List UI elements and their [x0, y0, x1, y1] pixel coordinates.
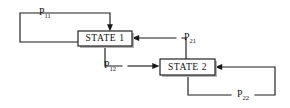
- p21-label-group: P21: [184, 31, 196, 43]
- diagram-canvas: STATE 1 STATE 2 P11 P12 P21 P22: [0, 0, 290, 108]
- p12-label-sub: 12: [109, 64, 116, 71]
- edge-label-p12: P12: [104, 59, 116, 71]
- state-box-state-1[interactable]: STATE 1: [78, 31, 134, 48]
- p21-label-sub: 21: [189, 36, 196, 43]
- state-2-label: STATE 2: [168, 61, 207, 72]
- p22-path-upper: [219, 67, 275, 95]
- edge-label-p22: P22: [237, 88, 249, 100]
- edge-label-p21: P21: [184, 31, 196, 43]
- p11-label-group: P11: [39, 6, 51, 18]
- p12-arrowhead-icon: [152, 63, 159, 69]
- edge-label-p11: P11: [39, 6, 51, 18]
- p11-arrowhead-icon: [107, 24, 113, 31]
- state-1-label: STATE 1: [85, 32, 124, 43]
- p22-path-lower: [188, 75, 231, 95]
- p11-label-sub: 11: [45, 11, 51, 18]
- p22-label-group: P22: [237, 88, 249, 100]
- state-transition-diagram: STATE 1 STATE 2 P11 P12 P21 P22: [0, 0, 290, 108]
- p12-label-group: P12: [104, 59, 116, 71]
- p22-label-sub: 22: [242, 93, 249, 100]
- state-box-state-2[interactable]: STATE 2: [160, 59, 217, 77]
- transition-p21: [132, 35, 186, 59]
